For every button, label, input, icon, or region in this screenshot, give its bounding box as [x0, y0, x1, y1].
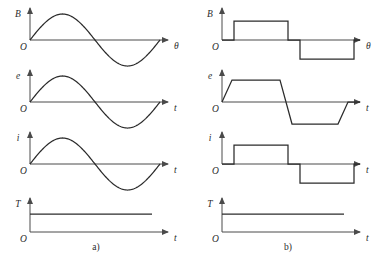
panel-b-i-origin-label: O — [212, 166, 219, 176]
panel-a-e-x-label: t — [174, 103, 177, 113]
panel-b-e: etO — [208, 70, 369, 124]
waveform-svg: BθOetOitOTtOBθOetOitOTtO a)b) — [0, 0, 387, 259]
panel-b-T-y-label: T — [207, 199, 213, 209]
panel-a-B: BθO — [15, 8, 179, 66]
panel-a-e-y-label: e — [16, 71, 20, 81]
panel-b-T-origin-label: O — [212, 234, 219, 244]
caption-a: a) — [92, 242, 99, 253]
panel-a-B-x-label: θ — [174, 41, 179, 51]
panel-a-T-origin-label: O — [20, 234, 27, 244]
panel-b-B-origin-label: O — [212, 42, 219, 52]
panel-a-B-origin-label: O — [20, 42, 27, 52]
waveform-figure: BθOetOitOTtOBθOetOitOTtO a)b) — [0, 0, 387, 259]
panel-b-B: BθO — [207, 8, 371, 59]
caption-b: b) — [284, 242, 292, 253]
panel-b-B-y-label: B — [207, 9, 213, 19]
panel-b-i-x-label: t — [366, 165, 369, 175]
panel-a-T: TtO — [15, 198, 177, 244]
panel-a-T-x-label: t — [174, 233, 177, 243]
panel-a-i-y-label: i — [17, 133, 20, 143]
panel-b-i: itO — [209, 132, 369, 183]
panel-b-i-y-label: i — [209, 133, 212, 143]
panel-b-e-x-label: t — [366, 103, 369, 113]
panel-a-e: etO — [16, 70, 177, 128]
panel-b-e-origin-label: O — [212, 104, 219, 114]
panel-a-B-y-label: B — [15, 9, 21, 19]
panel-b-B-x-label: θ — [366, 41, 371, 51]
panel-a-i-x-label: t — [174, 165, 177, 175]
panel-a-e-origin-label: O — [20, 104, 27, 114]
panel-b-T-x-label: t — [366, 233, 369, 243]
panel-a-i-origin-label: O — [20, 166, 27, 176]
panel-a-i: itO — [17, 132, 177, 190]
panel-b-e-y-label: e — [208, 71, 212, 81]
panel-a-T-y-label: T — [15, 199, 21, 209]
panel-b-T: TtO — [207, 198, 369, 244]
